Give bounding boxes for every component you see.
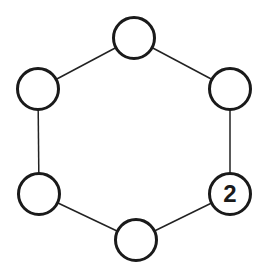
node-top [112,16,156,60]
hexagon-diagram: 2 [0,0,273,276]
node-lower-left [17,172,61,216]
node-upper-left [16,67,60,111]
node-lower-right: 2 [208,172,252,216]
node-upper-right [208,67,252,111]
node-bottom [114,218,158,262]
